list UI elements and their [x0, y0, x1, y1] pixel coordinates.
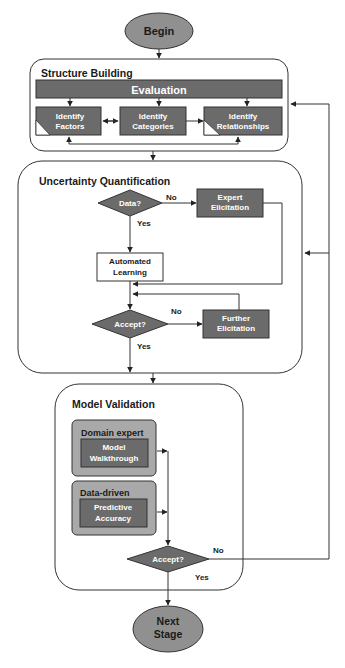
data-driven-group: Data-driven Predictive Accuracy — [72, 481, 156, 535]
svg-text:Predictive: Predictive — [94, 503, 133, 512]
svg-text:Identify: Identify — [229, 112, 258, 121]
svg-text:Walkthrough: Walkthrough — [90, 454, 139, 463]
uncertainty-quantification-group: Uncertainty Quantification Data? No Expe… — [18, 161, 302, 373]
structure-building-group: Structure Building Evaluation Identify F… — [30, 59, 288, 151]
svg-text:Accept?: Accept? — [114, 320, 146, 329]
data-yes-label: Yes — [137, 219, 151, 228]
accept-no-label-mv: No — [213, 546, 224, 555]
svg-text:Elicitation: Elicitation — [211, 203, 249, 212]
next-stage-node: Next Stage — [133, 606, 203, 652]
svg-text:Learning: Learning — [113, 268, 147, 277]
svg-text:Identify: Identify — [56, 112, 85, 121]
svg-text:Identify: Identify — [139, 112, 168, 121]
model-validation-title: Model Validation — [72, 398, 155, 410]
svg-text:Next: Next — [157, 615, 180, 627]
accept-no-label-uq: No — [171, 307, 182, 316]
begin-node: Begin — [125, 13, 193, 49]
further-elicitation-box: Further Elicitation — [203, 310, 269, 338]
svg-text:Categories: Categories — [132, 122, 174, 131]
svg-text:Automated: Automated — [109, 257, 151, 266]
svg-text:Factors: Factors — [56, 122, 85, 131]
identify-factors-box: Identify Factors — [36, 107, 101, 135]
accept-yes-label-mv: Yes — [195, 573, 209, 582]
svg-text:Accept?: Accept? — [152, 555, 184, 564]
svg-text:Stage: Stage — [154, 628, 183, 640]
identify-relationships-box: Identify Relationships — [204, 107, 282, 135]
evaluation-label: Evaluation — [131, 84, 187, 96]
svg-text:Expert: Expert — [218, 193, 243, 202]
data-no-label: No — [166, 193, 177, 202]
svg-text:Data-driven: Data-driven — [80, 488, 130, 498]
svg-text:Further: Further — [222, 314, 250, 323]
svg-text:Model: Model — [102, 443, 125, 452]
expert-elicitation-box: Expert Elicitation — [197, 189, 263, 217]
svg-text:Elicitation: Elicitation — [217, 324, 255, 333]
accept-yes-label-uq: Yes — [137, 342, 151, 351]
structure-building-title: Structure Building — [41, 67, 133, 79]
svg-text:Data?: Data? — [119, 199, 141, 208]
svg-text:Accuracy: Accuracy — [95, 514, 132, 523]
svg-text:Domain expert: Domain expert — [81, 428, 144, 438]
begin-label: Begin — [144, 25, 175, 37]
identify-categories-box: Identify Categories — [120, 107, 186, 135]
svg-text:Relationships: Relationships — [217, 122, 270, 131]
flowchart: Begin Structure Building Evaluation Iden… — [0, 0, 345, 668]
domain-expert-group: Domain expert Model Walkthrough — [72, 420, 156, 476]
uncertainty-quantification-title: Uncertainty Quantification — [39, 175, 170, 187]
automated-learning-box: Automated Learning — [97, 253, 163, 281]
